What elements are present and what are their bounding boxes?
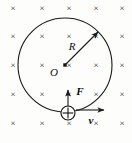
field-cross-icon: × <box>39 3 44 13</box>
velocity-label-v: v <box>89 114 94 126</box>
field-cross-icon: × <box>10 118 15 128</box>
field-cross-icon: × <box>39 31 44 41</box>
center-label-o: O <box>50 66 58 78</box>
diagram-canvas: ××××××××××××××××××××××××× O R F v <box>0 0 132 143</box>
field-cross-icon: × <box>10 31 15 41</box>
field-cross-icon: × <box>119 60 124 70</box>
field-cross-icon: × <box>93 118 98 128</box>
field-cross-icon: × <box>10 3 15 13</box>
field-cross-icon: × <box>119 3 124 13</box>
radius-label-r: R <box>68 40 76 52</box>
field-cross-icon: × <box>39 89 44 99</box>
field-cross-icon: × <box>10 89 15 99</box>
field-cross-icon: × <box>66 3 71 13</box>
field-cross-icon: × <box>93 60 98 70</box>
field-cross-icon: × <box>119 118 124 128</box>
positive-charge-particle <box>61 106 75 120</box>
field-cross-icon: × <box>39 60 44 70</box>
field-cross-icon: × <box>119 89 124 99</box>
field-cross-icon: × <box>10 60 15 70</box>
field-cross-icon: × <box>66 89 71 99</box>
physics-diagram-figure: ××××××××××××××××××××××××× O R F v <box>0 0 132 143</box>
field-cross-icon: × <box>39 118 44 128</box>
field-cross-icon: × <box>93 3 98 13</box>
field-cross-icon: × <box>119 31 124 41</box>
field-cross-icon: × <box>93 89 98 99</box>
force-label-f: F <box>75 85 84 97</box>
